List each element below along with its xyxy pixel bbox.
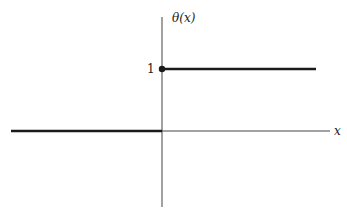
step-point-marker [159,66,165,72]
y-axis-label: θ(x) [172,11,196,25]
y-tick-label-1: 1 [147,62,155,76]
x-axis-label: x [334,124,341,138]
step-function-chart: θ(x) x 1 [0,0,347,219]
